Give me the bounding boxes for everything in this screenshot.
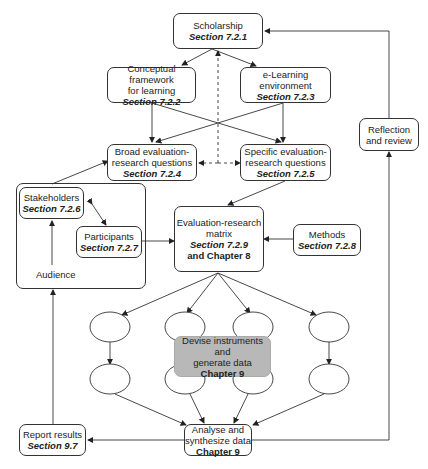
node-title-2: generate data <box>193 357 252 368</box>
node-section: Section 7.2.6 <box>22 203 80 214</box>
node-section: Section 7.2.8 <box>298 240 356 251</box>
node-title: Scholarship <box>193 20 243 31</box>
node-broad-questions: Broad evaluation- research questions Sec… <box>107 144 197 181</box>
node-title-2: for learning <box>128 85 176 96</box>
audience-label: Audience <box>36 269 76 280</box>
node-stakeholders: Stakeholders Section 7.2.6 <box>19 187 84 219</box>
node-participants: Participants Section 7.2.7 <box>76 226 142 258</box>
node-conceptual-framework: Conceptual framework for learning Sectio… <box>107 67 196 103</box>
node-title: Reflection <box>368 124 410 135</box>
node-reflection-review: Reflection and review <box>359 118 419 151</box>
node-scholarship: Scholarship Section 7.2.1 <box>173 13 263 49</box>
node-chapter: Chapter 9 <box>201 368 245 379</box>
node-section: Section 7.2.5 <box>256 168 314 179</box>
node-section: Section 9.7 <box>27 440 77 451</box>
node-title: Participants <box>84 231 134 242</box>
node-report-results: Report results Section 9.7 <box>19 424 86 456</box>
node-title: Report results <box>23 429 82 440</box>
node-title: Devise instruments and <box>175 335 270 357</box>
node-chapter: and Chapter 8 <box>187 250 250 261</box>
node-section: Section 7.2.4 <box>123 168 181 179</box>
node-title-2: and review <box>366 135 412 146</box>
node-title: Specific evaluation- <box>244 146 326 157</box>
node-section: Section 7.2.1 <box>189 31 247 42</box>
node-title: Conceptual framework <box>108 63 195 85</box>
node-section: Section 7.2.9 <box>190 239 248 250</box>
node-specific-questions: Specific evaluation- research questions … <box>240 144 331 181</box>
node-title: Analyse and <box>192 424 244 435</box>
node-title-2: research questions <box>112 157 192 168</box>
node-title-2: matrix <box>206 228 232 239</box>
node-title-2: synthesize data <box>185 435 251 446</box>
node-analyse-synthesize: Analyse and synthesize data Chapter 9 <box>184 424 252 456</box>
node-chapter: Chapter 9 <box>196 446 240 457</box>
node-title: Methods <box>309 229 345 240</box>
node-title: Broad evaluation- <box>115 146 189 157</box>
node-title: Stakeholders <box>24 192 79 203</box>
node-title: Evaluation-research <box>177 217 262 228</box>
node-title-2: research questions <box>245 157 325 168</box>
node-devise-instruments: Devise instruments and generate data Cha… <box>174 336 271 377</box>
node-methods: Methods Section 7.2.8 <box>293 224 361 256</box>
node-title: e-Learning <box>263 69 308 80</box>
node-evaluation-matrix: Evaluation-research matrix Section 7.2.9… <box>174 206 264 272</box>
node-section: Section 7.2.7 <box>80 242 138 253</box>
node-section: Section 7.2.2 <box>122 96 180 107</box>
node-section: Section 7.2.3 <box>256 91 314 102</box>
node-title-2: environment <box>259 80 311 91</box>
node-elearning-environment: e-Learning environment Section 7.2.3 <box>240 67 331 103</box>
